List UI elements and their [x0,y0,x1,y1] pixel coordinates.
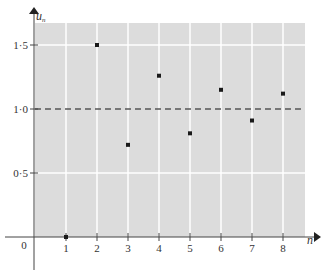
x-tick-label: 3 [125,242,131,254]
y-tick-label: 1·5 [13,39,28,51]
x-tick-label: 4 [156,242,162,254]
data-point [250,119,254,123]
y-tick-label: 0·5 [13,167,28,179]
y-tick-label: 1·0 [13,103,28,115]
x-axis-arrow-icon [314,232,321,242]
plot-background [35,23,305,237]
x-tick-label: 7 [249,242,255,254]
x-tick-label: 1 [63,242,69,254]
data-point [64,235,68,239]
data-point [281,92,285,96]
data-point [95,43,99,47]
data-point [157,74,161,78]
sequence-scatter-chart: 12345678 0·51·01·5 0 n un [0,0,323,273]
x-tick-label: 6 [218,242,224,254]
data-point [188,131,192,135]
data-point [219,88,223,92]
data-point [126,143,130,147]
x-tick-label: 5 [187,242,193,254]
x-tick-label: 2 [94,242,100,254]
origin-label: 0 [21,239,27,251]
x-axis-label: n [307,233,313,247]
x-tick-label: 8 [280,242,286,254]
y-axis-label: un [36,9,46,24]
